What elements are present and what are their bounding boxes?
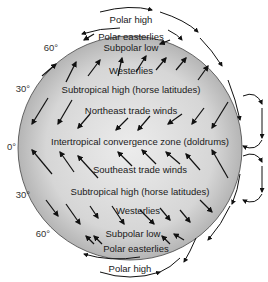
lat-label-30n: 30° [16, 83, 31, 94]
lat-label-30s: 30° [16, 189, 31, 200]
label-subtropical-high-s: Subtropical high (horse latitudes) [71, 186, 210, 197]
lat-label-60s: 60° [36, 228, 51, 239]
label-subpolar-low-n: Subpolar low [104, 42, 159, 53]
label-polar-high-n: Polar high [110, 14, 153, 25]
lat-label-60n: 60° [44, 42, 59, 53]
label-ne-trade-winds: Northeast trade winds [85, 105, 178, 116]
label-subpolar-low-s: Subpolar low [106, 228, 161, 239]
hadley-cell-loops [243, 94, 262, 202]
label-subtropical-high-n: Subtropical high (horse latitudes) [62, 84, 201, 95]
label-polar-easterlies-n: Polar easterlies [98, 31, 164, 42]
label-westerlies-s: Westerlies [116, 205, 160, 216]
label-itcz: Intertropical convergence zone (doldrums… [51, 136, 229, 147]
label-polar-high-s: Polar high [109, 263, 152, 274]
label-westerlies-n: Westerlies [109, 65, 153, 76]
lat-label-equator: 0° [7, 141, 16, 152]
label-se-trade-winds: Southeast trade winds [93, 164, 187, 175]
circulation-diagram: 60° 30° 0° 30° 60° Polar high Polar east… [0, 0, 268, 282]
label-polar-easterlies-s: Polar easterlies [103, 243, 169, 254]
